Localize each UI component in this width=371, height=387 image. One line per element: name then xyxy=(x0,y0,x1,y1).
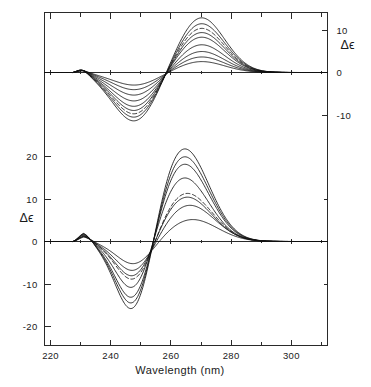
x-tick-label: 240 xyxy=(102,350,119,361)
cd-spectra-figure: 220240260280300Wavelength (nm)20100-10-2… xyxy=(0,0,371,387)
y-right-tick-label: 10 xyxy=(337,25,348,36)
upper-panel-curves xyxy=(45,18,328,121)
axis-ticks xyxy=(45,13,328,346)
spectrum-curve xyxy=(45,157,328,303)
y-left-tick-label: 10 xyxy=(26,194,37,205)
x-tick-label: 260 xyxy=(163,350,180,361)
lower-panel-curves xyxy=(45,149,328,309)
right-axis-title: Δϵ xyxy=(341,38,355,52)
x-axis-title: Wavelength (nm) xyxy=(135,364,224,376)
y-left-tick-label: 0 xyxy=(32,236,38,247)
frame-rect xyxy=(45,13,328,346)
spectrum-curve xyxy=(45,164,328,297)
x-tick-label: 220 xyxy=(42,350,59,361)
y-left-tick-label: -10 xyxy=(23,279,38,290)
spectrum-curve xyxy=(45,28,328,113)
y-right-tick-label: 0 xyxy=(337,67,343,78)
plot-frame xyxy=(45,13,328,346)
spectrum-curve xyxy=(45,18,328,121)
axis-labels: 220240260280300Wavelength (nm)20100-10-2… xyxy=(20,25,355,376)
x-tick-label: 280 xyxy=(223,350,240,361)
plot-canvas: 220240260280300Wavelength (nm)20100-10-2… xyxy=(0,0,371,387)
x-tick-label: 300 xyxy=(283,350,300,361)
left-axis-title: Δϵ xyxy=(20,211,34,225)
spectrum-curve xyxy=(45,178,328,287)
spectrum-curve xyxy=(45,149,328,309)
spectrum-curve xyxy=(45,24,328,117)
y-left-tick-label: -20 xyxy=(23,321,38,332)
y-right-tick-label: -10 xyxy=(337,110,352,121)
y-left-tick-label: 20 xyxy=(26,151,37,162)
